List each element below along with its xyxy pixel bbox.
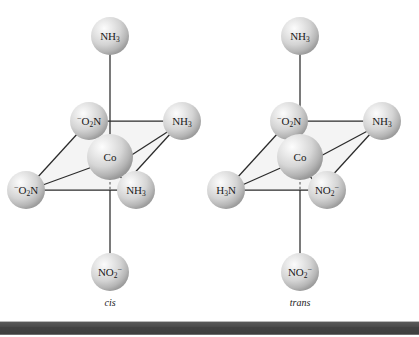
ligand-trans-equatorial-front-right: NO2− [308, 171, 346, 209]
metal-center-trans-label: Co [294, 151, 307, 163]
ligand-cis-equatorial-front-left-label: −O2N [14, 182, 38, 197]
caption-trans: trans [290, 297, 311, 308]
ligand-trans-equatorial-back-left-label: −O2N [277, 113, 301, 128]
ligand-cis-axial-top: NH3 [91, 17, 129, 55]
ligand-cis-equatorial-front-left: −O2N [7, 171, 45, 209]
page-footer-bar [0, 321, 419, 335]
metal-center-cis-label: Co [104, 151, 117, 163]
caption-cis: cis [104, 297, 115, 308]
ligand-cis-equatorial-front-right: NH3 [117, 171, 155, 209]
ligand-cis-equatorial-back-left-label: −O2N [77, 113, 101, 128]
structure-cis: NH3 −O2N NH3 Co −O2N [7, 17, 201, 308]
metal-center-trans: Co [277, 134, 323, 180]
structure-trans: NH3 −O2N NH3 Co H3N [207, 17, 401, 308]
ligand-trans-equatorial-front-left: H3N [207, 171, 245, 209]
ligand-cis-equatorial-back-left: −O2N [70, 102, 108, 140]
isomer-figure-canvas: NH3 −O2N NH3 Co −O2N [0, 0, 419, 337]
metal-center-cis: Co [87, 134, 133, 180]
ligand-trans-equatorial-back-right: NH3 [363, 102, 401, 140]
ligand-trans-axial-bottom: NO2− [281, 253, 319, 291]
ligand-trans-axial-top: NH3 [281, 17, 319, 55]
ligand-cis-equatorial-back-right: NH3 [163, 102, 201, 140]
ligand-cis-axial-bottom: NO2− [91, 253, 129, 291]
